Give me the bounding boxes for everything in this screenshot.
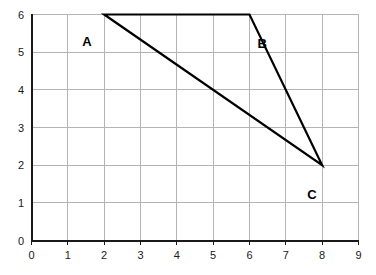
- y-tick-label-0: 0: [8, 235, 24, 246]
- y-tick-label-1: 1: [8, 197, 24, 208]
- y-tick-label-3: 3: [8, 122, 24, 133]
- x-tick-label-6: 6: [246, 250, 252, 261]
- x-tick-label-8: 8: [319, 250, 325, 261]
- x-tick-label-0: 0: [28, 250, 34, 261]
- x-tick-label-3: 3: [137, 250, 143, 261]
- chart-container: 0123456789 0123456 ABC: [0, 0, 376, 275]
- y-tick-label-6: 6: [8, 9, 24, 20]
- x-tick-label-2: 2: [101, 250, 107, 261]
- y-tick-label-4: 4: [8, 84, 24, 95]
- x-tick-label-5: 5: [210, 250, 216, 261]
- y-tick-label-2: 2: [8, 160, 24, 171]
- vertex-label-c: C: [307, 188, 316, 201]
- x-tick-label-9: 9: [355, 250, 361, 261]
- vertex-label-b: B: [258, 37, 267, 50]
- vertex-label-a: A: [82, 35, 91, 48]
- y-tick-label-5: 5: [8, 47, 24, 58]
- grid-lines: [32, 15, 359, 241]
- x-tick-label-1: 1: [65, 250, 71, 261]
- x-tick-label-7: 7: [283, 250, 289, 261]
- x-tick-label-4: 4: [174, 250, 180, 261]
- tick-marks: [32, 242, 359, 245]
- plot-canvas: [0, 0, 376, 275]
